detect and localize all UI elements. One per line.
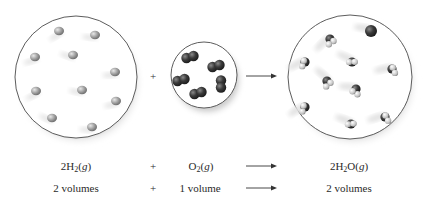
vessel-hydrogen xyxy=(14,16,144,147)
vessel-oxygen xyxy=(170,42,244,117)
plus-sign: + xyxy=(150,160,156,172)
volume-arrow xyxy=(244,183,280,193)
reactant-h2-volume: 2 volumes xyxy=(53,182,99,194)
product-h2o-formula: 2H2O(g) xyxy=(330,160,368,172)
reaction-arrow xyxy=(244,161,280,171)
o2-molecule-icon xyxy=(216,75,226,92)
vessel-water xyxy=(286,15,419,148)
plus-sign: + xyxy=(150,70,156,82)
reaction-arrow xyxy=(246,74,277,79)
reactant-o2-formula: O2(g) xyxy=(189,160,214,172)
plus-sign: + xyxy=(150,182,156,194)
reaction-diagram: + xyxy=(0,0,428,150)
reactant-o2-volume: 1 volume xyxy=(179,182,220,194)
product-h2o-volume: 2 volumes xyxy=(326,182,372,194)
reactant-h2-formula: 2H2(g) xyxy=(61,160,91,172)
